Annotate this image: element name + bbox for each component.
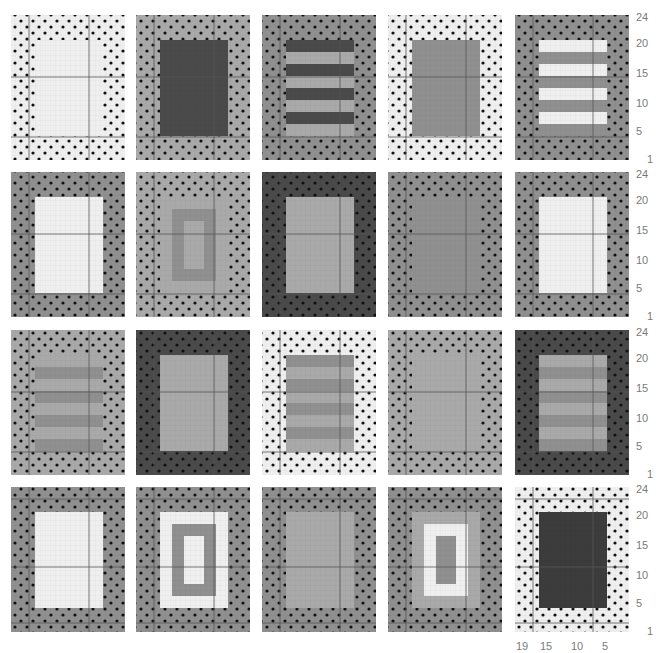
panel-r2c4 [388, 172, 502, 317]
fine-grid [136, 487, 250, 632]
fine-grid [11, 172, 125, 317]
y-axis-label: 1 [647, 625, 653, 637]
y-axis-label: 15 [636, 382, 648, 394]
y-axis-label: 5 [636, 597, 642, 609]
panel-r3c2 [136, 330, 250, 475]
fine-grid [11, 15, 125, 160]
y-axis-label: 10 [636, 97, 648, 109]
fine-grid [515, 172, 629, 317]
panel-r1c3 [262, 15, 376, 160]
y-axis-label: 1 [647, 153, 653, 165]
y-axis-label: 15 [636, 67, 648, 79]
fine-grid [515, 330, 629, 475]
x-axis-label: 10 [571, 640, 583, 652]
panel-r4c4 [388, 487, 502, 632]
fine-grid [262, 172, 376, 317]
y-axis-label: 15 [636, 224, 648, 236]
y-axis-label: 20 [636, 37, 648, 49]
y-axis-label: 15 [636, 539, 648, 551]
fine-grid [136, 330, 250, 475]
panel-r3c1 [11, 330, 125, 475]
fine-grid [515, 15, 629, 160]
fine-grid [388, 330, 502, 475]
fine-grid [136, 172, 250, 317]
fine-grid [515, 487, 629, 632]
panel-r3c5 [515, 330, 629, 475]
panel-r1c4 [388, 15, 502, 160]
fine-grid [388, 487, 502, 632]
y-axis-label: 24 [636, 11, 648, 23]
fine-grid [388, 172, 502, 317]
y-axis-label: 20 [636, 352, 648, 364]
swatch-grid: 2420151051242015105124201510512420151051… [0, 0, 660, 653]
y-axis-label: 10 [636, 569, 648, 581]
y-axis-label: 5 [636, 440, 642, 452]
y-axis-label: 10 [636, 412, 648, 424]
y-axis-label: 20 [636, 509, 648, 521]
panel-r2c3 [262, 172, 376, 317]
panel-r2c1 [11, 172, 125, 317]
panel-r4c5 [515, 487, 629, 632]
panel-r1c5 [515, 15, 629, 160]
panel-r2c2 [136, 172, 250, 317]
y-axis-label: 1 [647, 310, 653, 322]
panel-r3c3 [262, 330, 376, 475]
y-axis-label: 24 [636, 483, 648, 495]
fine-grid [262, 15, 376, 160]
fine-grid [262, 487, 376, 632]
y-axis-label: 5 [636, 125, 642, 137]
fine-grid [11, 487, 125, 632]
y-axis-label: 10 [636, 254, 648, 266]
swatch-panels: 2420151051242015105124201510512420151051… [0, 0, 660, 653]
panel-r4c1 [11, 487, 125, 632]
y-axis-label: 24 [636, 326, 648, 338]
panel-r1c1 [11, 15, 125, 160]
panel-r4c2 [136, 487, 250, 632]
panel-r1c2 [136, 15, 250, 160]
y-axis-label: 20 [636, 194, 648, 206]
panel-r3c4 [388, 330, 502, 475]
x-axis-label: 15 [540, 640, 552, 652]
panel-r4c3 [262, 487, 376, 632]
y-axis-label: 1 [647, 468, 653, 480]
fine-grid [136, 15, 250, 160]
y-axis-label: 5 [636, 282, 642, 294]
y-axis-label: 24 [636, 168, 648, 180]
panel-r2c5 [515, 172, 629, 317]
fine-grid [11, 330, 125, 475]
fine-grid [388, 15, 502, 160]
x-axis-label: 19 [516, 640, 528, 652]
fine-grid [262, 330, 376, 475]
x-axis-label: 5 [602, 640, 608, 652]
